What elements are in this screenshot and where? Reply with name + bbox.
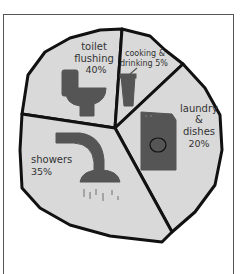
label-showers-line-1: 35% — [31, 166, 52, 177]
label-cooking-line-0: cooking & — [125, 49, 165, 58]
label-toilet-line-2: 40% — [85, 64, 106, 75]
label-toilet-line-0: toilet — [81, 41, 107, 52]
label-cooking-line-1: drinking 5% — [120, 59, 168, 68]
label-toilet-line-1: flushing — [74, 53, 114, 64]
label-laundry-line-2: dishes — [183, 126, 215, 137]
label-laundry-line-3: 20% — [188, 138, 209, 149]
label-laundry-line-0: laundry — [180, 103, 218, 114]
label-showers-line-0: showers — [31, 154, 72, 165]
label-laundry-line-1: & — [195, 114, 203, 125]
washing-machine-icon — [141, 112, 176, 170]
